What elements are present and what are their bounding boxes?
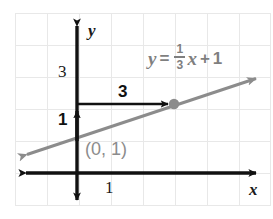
- equation-variable: x: [187, 49, 197, 68]
- plotted-point: [169, 99, 179, 109]
- coordinate-plane-svg: [0, 0, 273, 219]
- equation-plus-sign: +: [200, 50, 210, 67]
- equation-lhs: y: [148, 49, 156, 68]
- fraction-denominator: 3: [176, 59, 185, 71]
- equation-fraction: 1 3: [174, 43, 185, 71]
- x-axis-label: x: [249, 181, 258, 198]
- graph-figure: y x 3 1 1 3 (0, 1) y = 1 3 x + 1: [0, 0, 273, 219]
- y-tick-label-3: 3: [58, 63, 67, 80]
- grid-lines: [15, 13, 271, 206]
- equation-label: y = 1 3 x + 1: [148, 44, 222, 72]
- y-intercept-label: (0, 1): [85, 140, 127, 158]
- equation-equals-sign: =: [159, 50, 169, 67]
- x-tick-label-1: 1: [105, 179, 114, 196]
- fraction-numerator: 1: [176, 43, 185, 55]
- y-axis-label: y: [88, 22, 96, 39]
- rise-label: 1: [58, 111, 67, 128]
- run-label: 3: [118, 83, 127, 100]
- equation-constant: 1: [213, 50, 222, 67]
